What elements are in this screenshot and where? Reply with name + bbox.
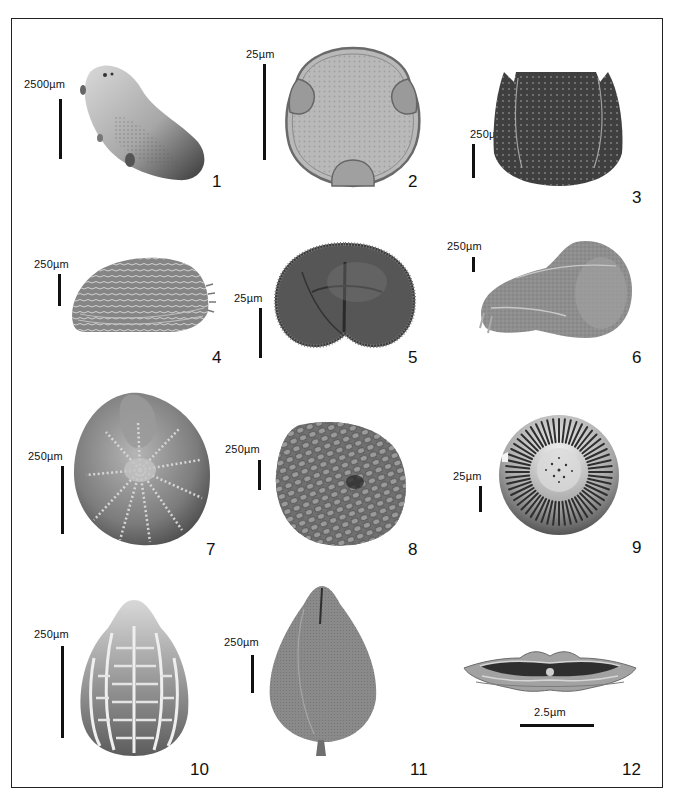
specimen-image-fig4 <box>68 256 218 336</box>
scale-bar-fig8 <box>258 460 261 490</box>
specimen-image-fig11 <box>264 584 384 759</box>
figure-number-4: 4 <box>212 348 221 368</box>
scale-label-fig1: 2500µm <box>24 78 65 90</box>
scale-bar-fig4 <box>58 274 61 306</box>
scale-label-fig4: 250µm <box>34 258 69 270</box>
scale-bar-fig10 <box>61 646 64 738</box>
specimen-image-fig12 <box>460 646 640 696</box>
scale-bar-fig1 <box>59 99 62 159</box>
scale-bar-fig6 <box>472 257 475 272</box>
figure-number-6: 6 <box>632 348 641 368</box>
specimen-image-fig8 <box>270 420 410 550</box>
scale-label-fig11: 250µm <box>224 636 259 648</box>
scale-bar-fig9 <box>479 486 482 512</box>
scale-label-fig10: 250µm <box>34 628 69 640</box>
figure-number-5: 5 <box>408 348 417 368</box>
figure-number-9: 9 <box>632 538 641 558</box>
specimen-image-fig9 <box>494 410 624 540</box>
scale-label-fig8: 250µm <box>225 443 260 455</box>
specimen-image-fig6 <box>476 238 636 343</box>
scale-bar-fig7 <box>61 466 64 534</box>
specimen-image-fig2 <box>282 44 424 189</box>
scale-label-fig5: 25µm <box>234 292 263 304</box>
figure-number-2: 2 <box>408 172 417 192</box>
figure-number-10: 10 <box>190 760 209 780</box>
scale-bar-fig12 <box>520 724 594 727</box>
scale-label-fig7: 250µm <box>28 450 63 462</box>
scale-label-fig9: 25µm <box>453 470 482 482</box>
scale-bar-fig2 <box>263 64 266 160</box>
scale-label-fig2: 25µm <box>246 48 275 60</box>
scale-bar-fig3 <box>472 144 475 178</box>
figure-number-11: 11 <box>410 760 428 780</box>
specimen-image-fig10 <box>76 598 194 758</box>
figure-number-8: 8 <box>408 540 417 560</box>
specimen-image-fig1 <box>70 60 220 190</box>
specimen-image-fig5 <box>272 242 418 352</box>
scale-bar-fig11 <box>251 655 254 693</box>
figure-number-3: 3 <box>632 188 641 208</box>
scale-label-fig12: 2.5µm <box>534 706 566 718</box>
figure-number-12: 12 <box>622 760 641 780</box>
specimen-image-fig7 <box>70 390 215 550</box>
scale-bar-fig5 <box>259 308 262 358</box>
figure-number-1: 1 <box>212 172 221 192</box>
figure-number-7: 7 <box>206 540 215 560</box>
specimen-image-fig3 <box>488 68 628 188</box>
